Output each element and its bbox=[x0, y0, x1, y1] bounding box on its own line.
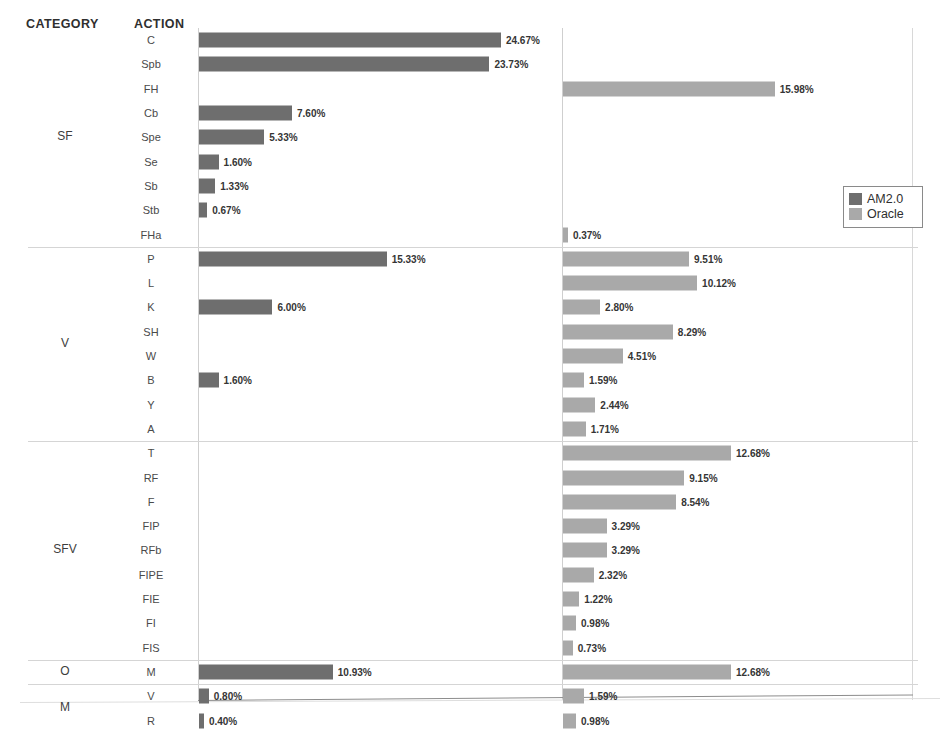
bar-am2 bbox=[199, 57, 489, 72]
bar-value-am2: 1.60% bbox=[224, 375, 252, 386]
action-label: Stb bbox=[120, 204, 182, 216]
bar-value-oracle: 3.29% bbox=[612, 545, 640, 556]
bar-oracle bbox=[563, 592, 579, 607]
bar-value-am2: 1.33% bbox=[220, 180, 248, 191]
legend-label-am2: AM2.0 bbox=[867, 192, 903, 206]
bar-value-oracle: 1.59% bbox=[589, 691, 617, 702]
chart-row: Cb7.60% bbox=[0, 101, 945, 125]
chart-row: FI0.98% bbox=[0, 611, 945, 635]
bar-value-oracle: 1.71% bbox=[591, 423, 619, 434]
chart-row: FHa0.37% bbox=[0, 222, 945, 246]
action-label: FIP bbox=[120, 520, 182, 532]
legend-swatch-am2-icon bbox=[849, 193, 862, 205]
bar-am2 bbox=[199, 713, 204, 728]
chart-row: FH15.98% bbox=[0, 77, 945, 101]
chart-row: B1.60%1.59% bbox=[0, 368, 945, 392]
bar-am2 bbox=[199, 33, 501, 48]
bar-value-oracle: 8.54% bbox=[681, 496, 709, 507]
bar-value-am2: 0.40% bbox=[209, 715, 237, 726]
bar-value-oracle: 3.29% bbox=[612, 521, 640, 532]
bar-value-am2: 6.00% bbox=[277, 302, 305, 313]
action-label: Spe bbox=[120, 131, 182, 143]
bar-value-am2: 5.33% bbox=[269, 132, 297, 143]
bar-value-oracle: 0.73% bbox=[578, 642, 606, 653]
action-label: Sb bbox=[120, 180, 182, 192]
chart-row: SH8.29% bbox=[0, 320, 945, 344]
bar-value-oracle: 4.51% bbox=[628, 351, 656, 362]
bar-value-am2: 0.67% bbox=[212, 205, 240, 216]
bar-am2 bbox=[199, 300, 272, 315]
chart-row: W4.51% bbox=[0, 344, 945, 368]
bar-oracle bbox=[563, 227, 568, 242]
bar-oracle bbox=[563, 373, 584, 388]
action-label: RFb bbox=[120, 544, 182, 556]
bar-value-oracle: 2.32% bbox=[599, 569, 627, 580]
bar-oracle bbox=[563, 421, 586, 436]
chart-row: RFb3.29% bbox=[0, 538, 945, 562]
action-label: FHa bbox=[120, 229, 182, 241]
bar-value-oracle: 2.80% bbox=[605, 302, 633, 313]
action-label: RF bbox=[120, 472, 182, 484]
chart-row: Se1.60% bbox=[0, 150, 945, 174]
action-label: V bbox=[120, 690, 182, 702]
bar-value-oracle: 12.68% bbox=[736, 448, 770, 459]
category-separator bbox=[28, 247, 918, 248]
bar-value-oracle: 2.44% bbox=[600, 399, 628, 410]
category-separator bbox=[28, 441, 918, 442]
bar-am2 bbox=[199, 664, 333, 679]
action-label: R bbox=[120, 715, 182, 727]
bar-value-oracle: 0.98% bbox=[581, 715, 609, 726]
category-label: O bbox=[10, 664, 120, 678]
chart-row: Sb1.33% bbox=[0, 174, 945, 198]
bar-oracle bbox=[563, 713, 576, 728]
bar-value-am2: 10.93% bbox=[338, 666, 372, 677]
bar-oracle bbox=[563, 664, 731, 679]
action-label: B bbox=[120, 374, 182, 386]
bar-oracle bbox=[563, 81, 775, 96]
chart-row: R0.40%0.98% bbox=[0, 708, 945, 732]
bar-oracle bbox=[563, 543, 607, 558]
bar-am2 bbox=[199, 689, 209, 704]
chart-row: FIE1.22% bbox=[0, 587, 945, 611]
action-label: Spb bbox=[120, 58, 182, 70]
category-separator bbox=[28, 660, 918, 661]
bar-oracle bbox=[563, 300, 600, 315]
chart-row: K6.00%2.80% bbox=[0, 295, 945, 319]
bar-value-oracle: 12.68% bbox=[736, 666, 770, 677]
category-label: SFV bbox=[10, 542, 120, 556]
action-label: FH bbox=[120, 83, 182, 95]
bar-oracle bbox=[563, 251, 689, 266]
bar-value-am2: 24.67% bbox=[506, 35, 540, 46]
action-label: T bbox=[120, 447, 182, 459]
bar-value-oracle: 9.15% bbox=[689, 472, 717, 483]
action-label: SH bbox=[120, 326, 182, 338]
chart-row: A1.71% bbox=[0, 417, 945, 441]
action-label: Se bbox=[120, 156, 182, 168]
action-label: Y bbox=[120, 399, 182, 411]
action-label: FIE bbox=[120, 593, 182, 605]
action-label: K bbox=[120, 301, 182, 313]
chart-row: V0.80%1.59% bbox=[0, 684, 945, 708]
bar-value-am2: 23.73% bbox=[494, 59, 528, 70]
bar-oracle bbox=[563, 276, 697, 291]
action-label: A bbox=[120, 423, 182, 435]
bar-oracle bbox=[563, 470, 684, 485]
bar-value-am2: 0.80% bbox=[214, 691, 242, 702]
chart-row: M10.93%12.68% bbox=[0, 660, 945, 684]
chart-row: P15.33%9.51% bbox=[0, 247, 945, 271]
chart-row: Stb0.67% bbox=[0, 198, 945, 222]
action-label: FIS bbox=[120, 642, 182, 654]
bar-am2 bbox=[199, 373, 219, 388]
bar-value-oracle: 0.98% bbox=[581, 618, 609, 629]
bar-oracle bbox=[563, 446, 731, 461]
chart-row: Y2.44% bbox=[0, 393, 945, 417]
bar-value-oracle: 0.37% bbox=[573, 229, 601, 240]
bar-oracle bbox=[563, 324, 673, 339]
category-label: SF bbox=[10, 129, 120, 143]
bar-value-am2: 15.33% bbox=[392, 253, 426, 264]
legend-label-oracle: Oracle bbox=[867, 207, 904, 221]
bar-value-oracle: 1.59% bbox=[589, 375, 617, 386]
action-label: L bbox=[120, 277, 182, 289]
action-label: M bbox=[120, 666, 182, 678]
